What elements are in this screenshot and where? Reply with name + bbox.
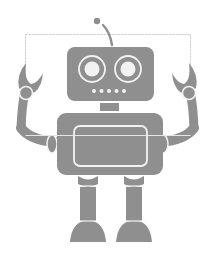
right-arm	[158, 63, 197, 153]
left-arm	[18, 63, 57, 153]
right-eye	[121, 62, 136, 77]
head	[67, 47, 154, 101]
antenna-ball	[94, 18, 100, 24]
right-wrist-joint	[183, 87, 196, 100]
right-foot	[116, 221, 152, 242]
left-shoulder-joint	[47, 135, 57, 153]
torso	[57, 113, 163, 175]
canvas	[0, 0, 215, 262]
legs	[70, 176, 152, 242]
robot-illustration[interactable]	[0, 0, 215, 262]
neck	[100, 103, 119, 111]
left-foot	[70, 221, 106, 242]
antenna	[94, 18, 112, 45]
right-leg	[126, 187, 142, 221]
left-wrist-joint	[20, 87, 33, 100]
left-eye	[85, 62, 100, 77]
left-leg	[80, 187, 96, 221]
